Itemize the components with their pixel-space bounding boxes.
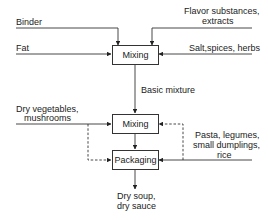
flavor-label-2: extracts [202,16,234,26]
basic-mixture-label: Basic mixture [141,85,195,95]
flavor-label-1: Flavor substances, [184,6,260,16]
dry-veg-label-2: mushrooms [24,113,71,123]
packaging-node: Packaging [112,150,159,170]
pasta-label-3: rice [217,150,232,160]
pasta-label-1: Pasta, legumes, [195,130,260,140]
mixing-node-2: Mixing [112,114,159,134]
product-label-2: dry sauce [117,201,156,211]
product-label-1: Dry soup, [117,191,156,201]
pasta-label-2: small dumplings, [193,140,260,150]
binder-label: Binder [16,17,42,27]
fat-label: Fat [16,43,29,53]
salt-label: Salt,spices, herbs [189,43,260,53]
mixing-node-1: Mixing [112,45,159,65]
